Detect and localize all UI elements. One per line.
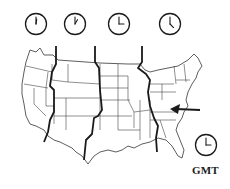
clock-eastern-icon [160, 14, 181, 35]
gmt-arrow-line [176, 109, 200, 110]
clock-mountain-icon [65, 14, 86, 35]
central-eastern-boundary [138, 46, 158, 152]
time-zone-map: GMT [0, 0, 230, 189]
map-canvas [0, 0, 230, 189]
clock-pacific-icon [26, 14, 47, 35]
clock-central-icon [109, 14, 130, 35]
gmt-arrow-head [170, 104, 180, 114]
clocks-group [26, 14, 217, 156]
gmt-label: GMT [192, 164, 219, 176]
time-zone-boundaries [44, 46, 200, 160]
clock-gmt-icon [196, 135, 217, 156]
